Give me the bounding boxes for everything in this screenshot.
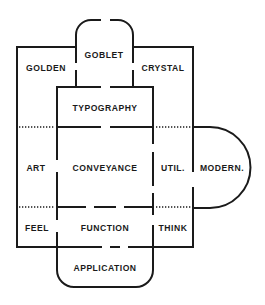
typography-concept-diagram: GOBLET GOLDEN CRYSTAL TYPOGRAPHY ART CON… xyxy=(0,0,265,305)
label-application: APPLICATION xyxy=(73,263,136,273)
label-conveyance: CONVEYANCE xyxy=(73,163,138,173)
inner-box xyxy=(56,86,154,270)
label-art: ART xyxy=(26,163,45,173)
label-function: FUNCTION xyxy=(81,223,129,233)
label-typography: TYPOGRAPHY xyxy=(72,103,137,113)
outer-box xyxy=(16,46,194,248)
label-feel: FEEL xyxy=(25,223,49,233)
label-goblet: GOBLET xyxy=(85,50,124,60)
label-crystal: CRYSTAL xyxy=(141,63,184,73)
label-golden: GOLDEN xyxy=(26,63,66,73)
diagram-lines xyxy=(0,0,265,305)
label-util: UTIL. xyxy=(161,163,185,173)
label-think: THINK xyxy=(159,223,188,233)
label-modern: MODERN. xyxy=(200,163,244,173)
